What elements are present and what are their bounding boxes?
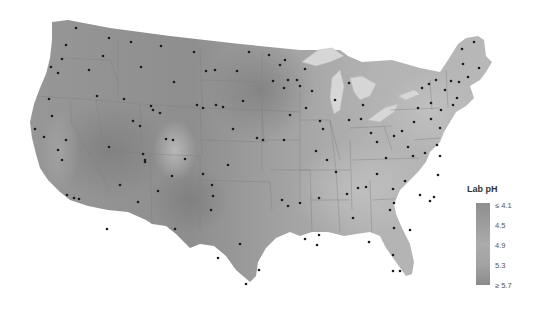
legend-color-bar bbox=[476, 203, 490, 285]
legend-tick: 5.3 bbox=[495, 261, 505, 270]
land-area bbox=[30, 20, 492, 282]
legend-tick-min: ≤ 4.1 bbox=[495, 201, 512, 210]
legend-title: Lab pH bbox=[467, 184, 498, 194]
legend-tick-max: ≥ 5.7 bbox=[495, 281, 512, 290]
legend-tick: 4.9 bbox=[495, 241, 505, 250]
us-ph-map bbox=[0, 0, 534, 329]
legend-tick: 4.5 bbox=[495, 221, 505, 230]
ph-legend: Lab pH ≤ 4.1 4.5 4.9 5.3 ≥ 5.7 bbox=[466, 184, 534, 294]
